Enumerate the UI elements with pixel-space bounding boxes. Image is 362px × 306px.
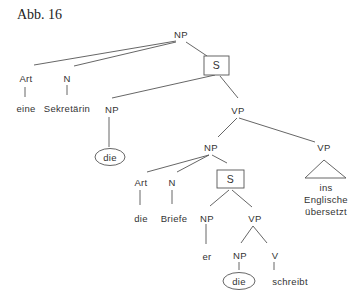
leaf-uebersetzt: übersetzt [305,206,347,217]
figure-caption: Abb. 16 [17,7,62,22]
node-n-1: N [63,73,70,84]
leaf-die-2: die [134,213,148,224]
tree-edges [25,41,346,270]
leaf-eine: eine [16,103,35,114]
syntax-tree-figure: Abb. 16 [0,0,362,306]
node-np-2: NP [204,142,218,153]
leaf-englische: Englische [304,194,348,205]
leaf-die-rel-1: die [103,152,117,163]
leaf-er: er [202,251,211,262]
node-root-np: NP [174,29,188,40]
node-s-2: S [227,173,234,185]
node-vp-2: VP [317,142,330,153]
node-np-er: NP [200,213,214,224]
node-v: V [272,250,279,261]
node-art-2: Art [134,177,147,188]
node-vp-1: VP [231,105,244,116]
node-s-1: S [213,59,220,71]
node-np-rel-1: NP [105,104,119,115]
node-np-rel-2: NP [233,250,247,261]
node-art-1: Art [19,73,32,84]
leaf-die-rel-2: die [232,276,246,287]
leaf-schreibt: schreibt [272,276,308,287]
leaf-ins: ins [319,182,332,193]
triangle-icon [305,160,346,178]
node-n-2: N [168,177,175,188]
node-vp-3: VP [248,213,261,224]
leaf-briefe: Briefe [161,213,188,224]
leaf-sekretaerin: Sekretärin [44,103,90,114]
syntax-tree-svg: Abb. 16 [0,0,362,306]
